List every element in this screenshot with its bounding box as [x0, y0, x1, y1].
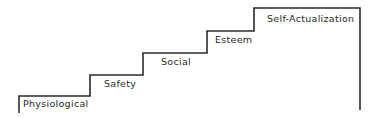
step-label-self-actualization: Self-Actualization [267, 14, 354, 24]
step-label-social: Social [161, 57, 191, 67]
step-label-safety: Safety [104, 79, 136, 89]
hierarchy-staircase-diagram: Physiological Safety Social Esteem Self-… [0, 0, 374, 118]
step-label-physiological: Physiological [23, 99, 88, 109]
step-label-esteem: Esteem [215, 35, 252, 45]
